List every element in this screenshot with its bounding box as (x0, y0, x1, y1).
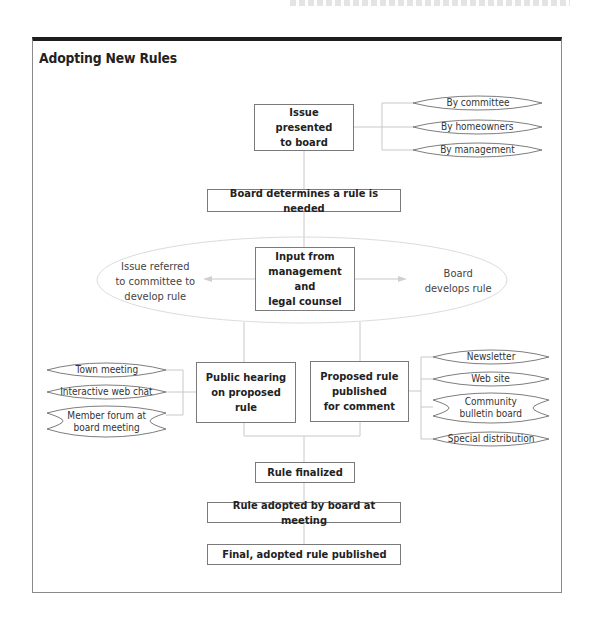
issue-presented-label: Issue presented to board (260, 105, 348, 150)
board-determines-box: Board determines a rule is needed (207, 189, 401, 212)
board-determines-label: Board determines a rule is needed (218, 186, 391, 216)
right-option-text: Board develops rule (418, 266, 498, 296)
proposed-published-box: Proposed rule published for comment (310, 361, 409, 422)
format-town-meeting: Town meeting (47, 363, 166, 377)
left-option-text: Issue referred to committee to develop r… (110, 259, 200, 304)
source-by-management: By management (413, 143, 542, 157)
channel-web-site: Web site (433, 372, 549, 386)
channel-bulletin-board: Community bulletin board (433, 393, 549, 423)
channel-label: Special distribution (448, 433, 535, 445)
right-option-label: Board develops rule (425, 266, 492, 296)
left-option-label: Issue referred to committee to develop r… (115, 259, 195, 304)
rule-finalized-box: Rule finalized (255, 462, 355, 483)
rule-adopted-label: Rule adopted by board at meeting (218, 498, 391, 528)
public-hearing-box: Public hearing on proposed rule (196, 362, 296, 423)
source-label: By management (440, 144, 515, 156)
format-web-chat: Interactive web chat (47, 385, 166, 399)
format-label: Town meeting (75, 364, 138, 376)
issue-presented-box: Issue presented to board (254, 104, 354, 151)
input-box: Input from management and legal counsel (255, 247, 355, 311)
source-label: By homeowners (441, 121, 513, 133)
channel-special-distribution: Special distribution (433, 432, 549, 446)
channel-newsletter: Newsletter (433, 350, 549, 364)
format-label: Interactive web chat (60, 386, 153, 398)
channel-label: Community bulletin board (460, 396, 523, 420)
source-by-homeowners: By homeowners (413, 120, 542, 134)
proposed-published-label: Proposed rule published for comment (320, 369, 398, 414)
final-published-box: Final, adopted rule published (207, 544, 401, 565)
channel-label: Web site (472, 373, 511, 385)
public-hearing-label: Public hearing on proposed rule (202, 370, 290, 415)
source-label: By committee (446, 97, 509, 109)
connectors-layer (0, 0, 595, 627)
input-label: Input from management and legal counsel (261, 249, 349, 309)
format-member-forum: Member forum at board meeting (47, 407, 166, 437)
format-label: Member forum at board meeting (67, 410, 146, 434)
source-by-committee: By committee (413, 96, 542, 110)
rule-adopted-box: Rule adopted by board at meeting (207, 502, 401, 523)
rule-finalized-label: Rule finalized (267, 465, 343, 480)
channel-label: Newsletter (467, 351, 516, 363)
final-published-label: Final, adopted rule published (222, 547, 386, 562)
